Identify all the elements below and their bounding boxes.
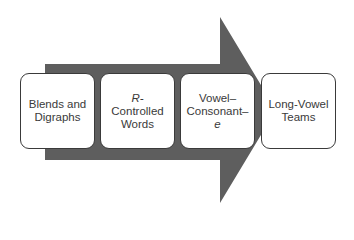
step-long-vowel-teams: Long-Vowel Teams <box>261 73 336 149</box>
step-vowel-consonant-e: Vowel– Consonant– e <box>180 73 255 149</box>
step-text-line: Controlled <box>111 105 163 118</box>
step-text-line: R- <box>111 92 163 105</box>
step-text-line: Digraphs <box>29 111 87 124</box>
step-text-line: Teams <box>268 111 328 124</box>
step-text-line: e <box>186 118 248 131</box>
step-blends-digraphs: Blends and Digraphs <box>20 73 95 149</box>
step-r-controlled-words: R- Controlled Words <box>100 73 175 149</box>
step-text-line: Long-Vowel <box>268 98 328 111</box>
step-text-line: Blends and <box>29 98 87 111</box>
step-text-line: Vowel– <box>186 92 248 105</box>
step-text-line: Consonant– <box>186 105 248 118</box>
step-text-line: Words <box>111 118 163 131</box>
